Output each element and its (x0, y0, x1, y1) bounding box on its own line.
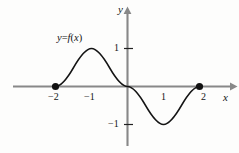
y-tick-label-1: 1 (114, 43, 119, 53)
y-axis-arrowhead (124, 7, 132, 15)
curve-label: y=f(x) (57, 33, 82, 44)
left-endpoint-dot (52, 83, 59, 90)
right-endpoint-dot (196, 83, 203, 90)
x-tick-label-neg2: −2 (48, 92, 59, 102)
x-tick-label-2: 2 (201, 92, 206, 102)
y-axis-name: y (118, 4, 123, 15)
x-tick-label-neg1: −1 (84, 92, 95, 102)
graph-canvas (0, 0, 239, 153)
x-tick-label-1: 1 (161, 92, 166, 102)
curve-label-close-paren: ) (79, 32, 83, 43)
graph-figure: −2 −1 1 2 1 −1 y x y=f(x) (0, 0, 239, 153)
x-axis-arrowhead (230, 83, 238, 91)
y-tick-label-neg1: −1 (108, 119, 119, 129)
x-axis-name: x (223, 92, 228, 103)
